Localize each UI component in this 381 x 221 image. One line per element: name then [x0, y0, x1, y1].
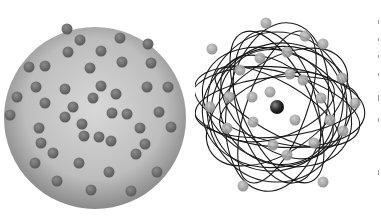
electron-particle: [131, 149, 142, 160]
electron-particle: [154, 107, 165, 118]
electron: [337, 73, 348, 84]
electron-particle: [94, 132, 105, 143]
electron-particle: [166, 122, 177, 133]
electron: [282, 150, 293, 161]
electron-particle: [63, 47, 74, 58]
electron-particle: [60, 112, 71, 123]
cropped-edge-marks: [376, 0, 381, 221]
electron: [207, 44, 218, 55]
electron-particle: [68, 102, 79, 113]
electron: [350, 98, 361, 109]
electron-particle: [40, 98, 51, 109]
electron: [338, 126, 349, 137]
electron-particle: [115, 33, 126, 44]
electron: [318, 39, 329, 50]
electron-particle: [111, 89, 122, 100]
electron: [298, 75, 309, 86]
electron: [205, 102, 216, 113]
electron-particle: [48, 148, 59, 159]
electron: [222, 123, 233, 134]
electron-particle: [62, 24, 73, 35]
electron-particle: [117, 57, 128, 68]
edge-mark: [378, 20, 379, 24]
electron: [290, 115, 301, 126]
electron: [282, 47, 293, 58]
electron-particle: [96, 46, 107, 57]
electron-particle: [75, 35, 86, 46]
electron: [261, 18, 272, 29]
positive-charge-sphere: [4, 27, 186, 209]
electron-particle: [143, 39, 154, 50]
electron-particle: [106, 136, 117, 147]
electron-particle: [122, 109, 133, 120]
electron-particle: [140, 139, 151, 150]
electron-particle: [60, 84, 71, 95]
electron-particle: [74, 158, 85, 169]
electron-particle: [107, 108, 118, 119]
electron: [325, 115, 336, 126]
electron: [309, 138, 320, 149]
atomic-models-figure: [0, 0, 381, 221]
electron: [300, 31, 311, 42]
electron: [255, 53, 266, 64]
electron-particle: [79, 131, 90, 142]
electron-particle: [24, 62, 35, 73]
electron-particle: [152, 167, 163, 178]
electron-particle: [126, 186, 137, 197]
plum-pudding-model-illustration: [0, 0, 195, 221]
nucleus: [270, 100, 284, 114]
edge-mark: [378, 118, 379, 122]
edge-mark: [378, 170, 379, 175]
electron: [247, 92, 258, 103]
electron-particle: [36, 138, 47, 149]
electron-particle: [96, 81, 107, 92]
electron: [316, 93, 327, 104]
electron-particle: [86, 185, 97, 196]
electron: [265, 87, 276, 98]
electron: [248, 117, 259, 128]
electron: [285, 69, 296, 80]
electron: [268, 140, 279, 151]
electron-particle: [52, 176, 63, 187]
electron: [238, 181, 249, 192]
edge-mark: [378, 55, 379, 58]
edge-mark: [378, 73, 379, 76]
electron-particle: [85, 63, 96, 74]
electron-particle: [77, 119, 88, 130]
electron: [318, 177, 329, 188]
electron-particle: [40, 61, 51, 72]
electron-particle: [12, 92, 23, 103]
electron-particle: [31, 82, 42, 93]
electron-particle: [30, 158, 41, 169]
electron-particle: [146, 58, 157, 69]
electron: [224, 92, 235, 103]
electron-particle: [135, 123, 146, 134]
edge-mark: [378, 38, 379, 41]
electron-particle: [5, 110, 16, 121]
electron: [235, 65, 246, 76]
nucleus-orbit-diagram: [195, 0, 375, 221]
uniform-sphere-diagram: [0, 0, 195, 221]
nuclear-model-illustration: [195, 0, 375, 221]
electron-particle: [104, 167, 115, 178]
electron-particle: [88, 93, 99, 104]
edge-mark: [378, 95, 379, 101]
electron-particle: [142, 82, 153, 93]
electron-particle: [34, 123, 45, 134]
electron-particle: [163, 82, 174, 93]
